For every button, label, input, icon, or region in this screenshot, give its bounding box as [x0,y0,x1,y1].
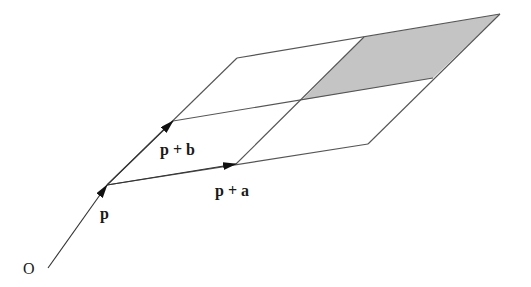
label-origin: O [23,260,35,277]
grid-line-col-1 [236,37,364,164]
vector-p-arrow [48,185,107,268]
shaded-cell [302,14,500,100]
diagram-svg: O p p + b p + a [0,0,531,287]
parallelogram-lattice-diagram: O p p + b p + a [0,0,531,287]
label-p-plus-b: p + b [160,141,195,159]
label-p: p [100,205,109,223]
label-p-plus-a: p + a [215,182,249,200]
grid-line-row-1 [173,78,433,121]
